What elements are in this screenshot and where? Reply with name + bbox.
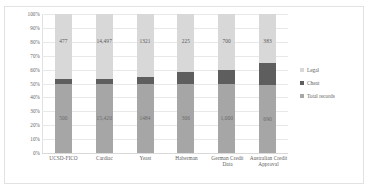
gridline-0 [42,153,288,154]
segment-legal[interactable]: 700 [218,14,235,70]
x-label-ucsd-fico: UCSD-FICO [44,155,84,168]
segment-legal[interactable]: 14,497 [96,14,113,79]
legend-item-legal[interactable]: Legal [300,66,366,73]
bar-group: 477 500 14,497 15,420 1321 [43,14,288,153]
y-tick-90: 90% [6,25,40,31]
y-tick-100: 100% [6,11,40,17]
segment-total[interactable]: 690 [259,85,276,153]
plot-area: 477 500 14,497 15,420 1321 [42,14,288,153]
bar-value-legal: 477 [59,38,67,44]
bar-ucsd-fico[interactable]: 477 500 [55,14,72,153]
bar-value-legal: 383 [263,38,271,44]
bar-value-total: 690 [263,116,271,122]
x-label-german-credit-data: German Credit Data [208,155,248,168]
legend-label: Cheat [307,80,319,86]
segment-legal[interactable]: 477 [55,14,72,79]
segment-cheat[interactable] [259,63,276,85]
segment-total[interactable]: 306 [177,84,194,154]
y-axis: 100% 90% 80% 70% 60% 50% 40% 30% 20% 10%… [0,14,40,153]
segment-total[interactable]: 500 [55,84,72,154]
y-tick-10: 10% [6,136,40,142]
y-tick-60: 60% [6,67,40,73]
bar-haberman[interactable]: 225 306 [177,14,194,153]
bar-value-total: 1,000 [220,115,233,121]
y-tick-30: 30% [6,108,40,114]
y-tick-50: 50% [6,81,40,87]
bar-yeast[interactable]: 1321 1484 [137,14,154,153]
segment-legal[interactable]: 383 [259,14,276,63]
bar-value-total: 1484 [139,115,150,121]
segment-cheat[interactable] [218,70,235,84]
x-axis: UCSD-FICO Cardiac Yeast Haberman German … [43,155,289,168]
bar-value-total: 500 [59,115,67,121]
segment-cheat[interactable] [137,77,154,84]
segment-total[interactable]: 15,420 [96,84,113,154]
bar-value-legal: 225 [182,38,190,44]
x-label-cardiac: Cardiac [85,155,125,168]
segment-cheat[interactable] [177,72,194,83]
legend-label: Total records [307,93,335,99]
segment-legal[interactable]: 1321 [137,14,154,77]
stacked-bar-chart: 100% 90% 80% 70% 60% 50% 40% 30% 20% 10%… [0,0,371,190]
bar-value-legal: 14,497 [97,38,112,44]
x-label-yeast: Yeast [126,155,166,168]
bar-australian-credit-approval[interactable]: 383 690 [259,14,276,153]
y-tick-0: 0% [6,150,40,156]
square-swatch-icon [300,81,304,85]
bar-value-total: 306 [182,115,190,121]
legend-item-cheat[interactable]: Cheat [300,79,366,86]
legend-label: Legal [307,67,319,73]
segment-total[interactable]: 1484 [137,84,154,154]
y-tick-80: 80% [6,39,40,45]
legend-item-total-records[interactable]: Total records [300,92,366,99]
bar-value-legal: 700 [223,38,231,44]
square-swatch-icon [300,68,304,72]
segment-legal[interactable]: 225 [177,14,194,72]
x-label-australian-credit-approval: Australian Credit Approval [249,155,289,168]
y-tick-70: 70% [6,53,40,59]
y-tick-20: 20% [6,122,40,128]
x-label-haberman: Haberman [167,155,207,168]
bar-value-legal: 1321 [139,38,150,44]
bar-value-total: 15,420 [97,115,112,121]
segment-total[interactable]: 1,000 [218,84,235,154]
y-tick-40: 40% [6,94,40,100]
bar-cardiac[interactable]: 14,497 15,420 [96,14,113,153]
legend: Legal Cheat Total records [300,66,366,105]
bar-german-credit-data[interactable]: 700 1,000 [218,14,235,153]
square-swatch-icon [300,94,304,98]
